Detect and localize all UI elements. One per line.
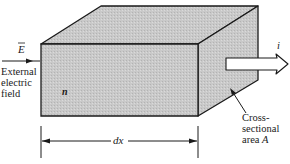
area-caption-line3: area A [242,134,269,145]
field-caption-line2: electric [1,77,32,88]
area-caption-text: area [242,134,262,145]
field-caption-line3: field [1,88,20,99]
length-label: dx [113,135,123,146]
area-caption-line2: sectional [242,123,279,134]
conductor-diagram: E External electric field n i Cross- sec… [0,0,290,164]
carrier-density-label: n [62,86,68,97]
electric-field-arrow [2,59,40,64]
field-caption-line1: External [1,66,37,77]
block-front-face [41,44,198,116]
area-symbol: A [262,134,268,145]
area-caption-line1: Cross- [242,112,269,123]
current-label: i [277,40,280,51]
field-symbol-label: E [18,44,25,55]
